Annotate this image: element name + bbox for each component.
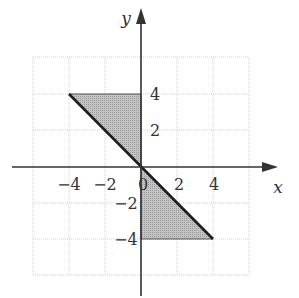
- x-axis-arrow-icon: [262, 162, 278, 172]
- coordinate-plane: x x y −4 −2 0 2 4 4 2 −2 −4: [0, 0, 299, 298]
- x-tick-label: 4: [209, 175, 219, 194]
- x-axis-label: x: [273, 177, 283, 197]
- y-tick-label: 2: [150, 121, 160, 140]
- x-tick-label: −2: [93, 175, 117, 194]
- y-tick-label: −2: [114, 194, 138, 213]
- y-axis-label: y: [120, 8, 131, 28]
- y-tick-label: −4: [114, 230, 138, 249]
- x-tick-label: 0: [138, 175, 148, 194]
- y-tick-label: 4: [150, 85, 160, 104]
- x-tick-label: −4: [57, 175, 81, 194]
- x-tick-label: 2: [174, 175, 184, 194]
- y-axis-arrow-icon: [136, 8, 146, 24]
